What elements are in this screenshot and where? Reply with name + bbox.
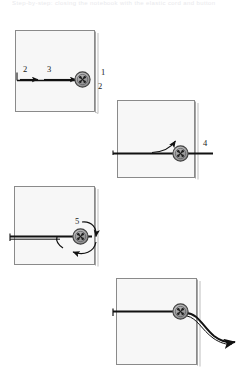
button-1 xyxy=(75,72,90,87)
book-body-4 xyxy=(117,279,201,367)
panel-3-step-three: 5 xyxy=(10,187,98,267)
button-3 xyxy=(73,229,88,244)
panel-1-label-2-left: 2 xyxy=(23,64,27,74)
panel-1-step-one: 2 3 1 2 xyxy=(16,31,106,114)
panel-4-step-four xyxy=(113,279,235,367)
panel-1-label-2-right: 2 xyxy=(98,81,102,91)
button-2 xyxy=(173,146,188,161)
instruction-diagram: 2 3 1 2 xyxy=(0,0,250,388)
panel-1-label-3: 3 xyxy=(47,64,51,74)
book-body-2 xyxy=(118,101,199,180)
panel-1-label-1-right: 1 xyxy=(101,67,105,77)
panel-2-step-two: 4 xyxy=(113,101,213,180)
button-4 xyxy=(173,304,188,319)
figure-canvas: Step-by-step: closing the notebook with … xyxy=(0,0,250,388)
panel-3-label-5: 5 xyxy=(75,216,79,226)
panel-2-label-4: 4 xyxy=(203,138,208,148)
book-body-3 xyxy=(15,187,99,267)
